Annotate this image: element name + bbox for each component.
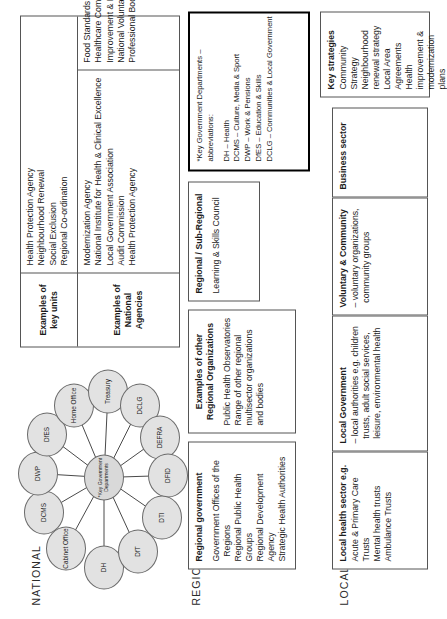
table-cell-line: Regional Co-ordination (59, 23, 70, 265)
box-heading: Regional government (194, 449, 205, 561)
abbreviation-item: DCLG – Communities & Local Government (265, 16, 276, 161)
box-line: Regions (222, 449, 233, 561)
hub-node-label: DfES (43, 427, 50, 442)
hub-node-label: DEFRA (156, 426, 163, 448)
abbreviations-column-left: DH – Health DCMS – Culture, Media & Spor… (222, 16, 276, 161)
box-line: trusts, adult social services, (361, 323, 372, 443)
table-row: Examples of National Agencies Modernizat… (78, 16, 179, 346)
table-row-label: Examples of National Agencies (78, 272, 179, 346)
box-line: Neighbourhood renewal strategy (360, 19, 382, 89)
box-line: Health improvement & (404, 19, 426, 89)
hub-node-label: DCMS (40, 503, 47, 522)
box-heading: Business sector (338, 115, 349, 189)
box-line: Regional Development Agency (255, 449, 277, 561)
box-line: Local Area Agreements (382, 19, 404, 89)
hub-node-label: DFID (164, 468, 171, 483)
hub-node-dfid: DFID (148, 453, 188, 497)
local-government-box: Local Government – local authorities e.g… (332, 315, 428, 451)
hub-node-label: DH (100, 562, 107, 571)
national-examples-table: Examples of key units Health Protection … (20, 15, 180, 347)
key-strategies-box: Key strategies Community Strategy Neighb… (320, 11, 430, 97)
box-heading: Local Government (338, 323, 349, 443)
regional-sub-regional-box: Regional / Sub-Regional Learning & Skill… (188, 181, 260, 301)
abbreviation-item: DfES – Education & Skills (254, 16, 265, 161)
abbreviation-item: DH – Health (222, 16, 233, 161)
box-line: and bodies (255, 317, 266, 425)
hub-node-label: Treasury (104, 379, 111, 404)
hub-node-label: DfT (134, 546, 141, 556)
table-cell: Health Protection Agency Neighbourhood R… (21, 16, 77, 272)
hub-node-dcms: DCMS (24, 490, 64, 534)
box-heading: Local health sector e.g. (338, 459, 349, 561)
business-sector-box: Business sector (332, 107, 428, 197)
hub-node-dwp: DWP (18, 451, 58, 495)
abbreviation-item: DCMS – Culture, Media & Sport (232, 16, 243, 161)
table-cell-line: Modernization Agency (82, 77, 93, 265)
box-line: – local authorities e.g. children (350, 323, 361, 443)
table-row-cells: Health Protection Agency Neighbourhood R… (21, 16, 77, 272)
table-cell-line: Health Protection Agency (25, 23, 36, 265)
hub-center-node: *Key Government Departments (84, 454, 124, 500)
table-cell-line: National Institute for Health & Clinical… (93, 77, 104, 265)
key-government-departments-hub: *Key Government Departments DH Cabinet O… (22, 357, 182, 597)
box-line: modernization plans (426, 19, 447, 89)
table-row: Examples of key units Health Protection … (21, 16, 78, 346)
regional-government-box: Regional government Government Offices o… (188, 441, 296, 569)
abbreviations-columns: DH – Health DCMS – Culture, Media & Spor… (222, 21, 276, 161)
box-line: Government Offices of the (211, 449, 222, 561)
box-line: leisure, environmental health (372, 323, 383, 443)
table-cell-line: Local Government Association (105, 77, 116, 265)
hub-node-label: Home Office (70, 387, 77, 422)
box-line: Range of other regional (233, 317, 244, 425)
abbreviation-item: DWP – Work & Pensions (243, 16, 254, 161)
voluntary-community-box: Voluntary & Community – voluntary organi… (332, 197, 428, 315)
abbreviations-title: *Key Government Departments – abbreviati… (195, 21, 217, 161)
local-health-sector-box: Local health sector e.g. Acute & Primary… (332, 451, 428, 569)
box-line: Mental health trusts (372, 459, 383, 561)
table-row-label: Examples of key units (21, 272, 77, 346)
box-line: Acute & Primary Care Trusts (350, 459, 372, 561)
hub-node-label: DWP (34, 466, 41, 481)
box-line: Public Health Observatories (222, 317, 233, 425)
table-cell-line: Health Protection Agency (127, 77, 138, 265)
table-cell: Food Standards Agency Healthcare Commiss… (78, 0, 179, 70)
table-cell-line: National Voluntary Organizations (116, 0, 127, 62)
box-line: Regional Public Health Groups (233, 449, 255, 561)
box-line: Learning & Skills Council (211, 189, 222, 293)
table-cell-line: Neighbourhood Renewal (36, 23, 47, 265)
box-heading: Examples of other Regional Organizations (194, 317, 216, 425)
box-line: multisector organizations (244, 317, 255, 425)
table-cell-line: Improvement & Development Agency (105, 0, 116, 62)
table-cell-line: Healthcare Commission (93, 0, 104, 62)
hub-center-label: *Key Government Departments (98, 455, 110, 499)
box-heading: Regional / Sub-Regional (194, 189, 205, 293)
table-row-cells: Modernization Agency National Institute … (78, 0, 179, 272)
box-line: – voluntary organizations, (350, 205, 361, 307)
table-cell: Modernization Agency National Institute … (78, 70, 179, 272)
box-heading: Key strategies (326, 19, 337, 89)
table-cell-line: Social Exclusion (48, 23, 59, 265)
box-line: community groups (361, 205, 372, 307)
hub-node-defra: DEFRA (140, 415, 180, 459)
hub-node-dft: DfT (118, 529, 158, 573)
box-line: Community Strategy (338, 19, 360, 89)
hub-node-label: DCLG (136, 396, 143, 414)
other-regional-organizations-box: Examples of other Regional Organizations… (188, 309, 296, 433)
tier-label-local: LOCAL (338, 565, 350, 605)
hub-node-label: DTI (158, 512, 165, 522)
box-heading: Voluntary & Community (338, 205, 349, 307)
box-line: Strategic Health Authorities (277, 449, 288, 561)
box-line: Ambulance Trusts (383, 459, 394, 561)
table-cell-line: Audit Commission (116, 77, 127, 265)
table-cell-line: Food Standards Agency (82, 0, 93, 62)
hub-node-label: Cabinet Office (62, 528, 69, 568)
table-cell-line: Professional Bodies (127, 0, 138, 62)
abbreviations-box: *Key Government Departments – abbreviati… (188, 11, 310, 171)
